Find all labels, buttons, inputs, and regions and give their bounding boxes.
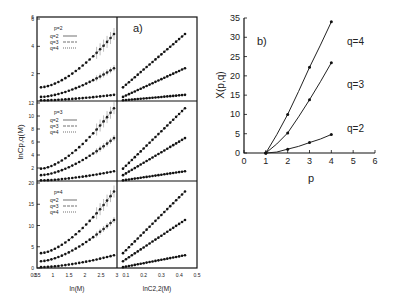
y-tick-label: 25 — [230, 52, 240, 62]
data-point — [163, 211, 166, 214]
data-point — [139, 163, 142, 166]
data-point — [54, 82, 57, 85]
x-tick-label: 3 — [116, 272, 119, 278]
data-point — [128, 265, 131, 268]
x-tick-label: 2 — [84, 272, 87, 278]
data-point — [122, 252, 125, 255]
data-point — [131, 254, 134, 257]
data-point — [184, 170, 187, 173]
data-point — [151, 82, 154, 85]
data-point — [109, 255, 112, 258]
data-point — [88, 260, 91, 263]
data-point — [40, 179, 43, 182]
data-point — [85, 241, 88, 244]
data-point — [178, 94, 181, 97]
data-point — [134, 167, 137, 170]
legend-title: p=3 — [54, 109, 63, 115]
data-point — [175, 71, 178, 74]
data-point — [74, 149, 77, 152]
data-point — [74, 176, 77, 179]
data-point — [81, 227, 84, 230]
data-point — [71, 236, 74, 239]
data-point — [95, 95, 98, 98]
data-point — [134, 98, 137, 101]
data-point — [64, 241, 67, 244]
panel-b-label: b) — [257, 35, 267, 47]
y-tick-label: 10 — [230, 109, 240, 119]
data-point — [64, 264, 67, 267]
data-point — [85, 223, 88, 226]
data-point — [99, 257, 102, 260]
data-point — [68, 263, 71, 266]
y-tick-label: 20 — [28, 180, 34, 186]
data-point — [181, 68, 184, 71]
data-point — [166, 48, 169, 51]
data-point — [181, 255, 184, 258]
data-point — [166, 147, 169, 150]
data-point — [134, 76, 137, 79]
data-point — [148, 225, 151, 228]
x-tick-label: 1.5 — [66, 272, 73, 278]
data-point — [47, 266, 50, 269]
data-point — [145, 244, 148, 247]
data-point — [50, 94, 53, 97]
data-point — [40, 252, 43, 255]
data-point — [151, 61, 154, 64]
data-point — [61, 244, 64, 247]
data-point — [122, 179, 125, 182]
series-line — [266, 22, 332, 153]
data-point — [330, 20, 333, 23]
data-point — [142, 231, 145, 234]
data-point — [184, 67, 187, 70]
data-point — [136, 237, 139, 240]
data-point — [151, 96, 154, 99]
x-axis-label: p — [308, 172, 314, 184]
data-point — [175, 171, 178, 174]
data-point — [71, 177, 74, 180]
y-tick-label: 0 — [235, 148, 240, 158]
data-point — [81, 243, 84, 246]
data-point — [74, 70, 77, 73]
x-tick-label: 1 — [52, 272, 55, 278]
data-point — [122, 86, 125, 89]
data-point — [136, 153, 139, 156]
data-point — [181, 170, 184, 173]
data-point — [68, 154, 71, 157]
data-point — [47, 95, 50, 98]
data-point — [54, 94, 57, 97]
data-point — [81, 64, 84, 67]
data-point — [131, 78, 134, 81]
data-point — [57, 246, 60, 249]
data-point — [181, 221, 184, 224]
data-point — [128, 178, 131, 181]
data-point — [169, 172, 172, 175]
data-point — [54, 265, 57, 268]
data-point — [95, 258, 98, 261]
data-point — [88, 96, 91, 99]
data-point — [148, 97, 151, 100]
data-point — [142, 176, 145, 179]
legend-entry: q=4 — [50, 129, 59, 135]
data-point — [92, 96, 95, 99]
data-point — [78, 161, 81, 164]
data-point — [122, 167, 125, 170]
data-point — [154, 81, 157, 84]
data-point — [172, 72, 175, 75]
data-point — [43, 251, 46, 254]
y-tick-label: 35 — [230, 13, 240, 23]
data-point — [47, 179, 50, 182]
data-point — [88, 174, 91, 177]
data-point — [40, 174, 43, 177]
data-point — [125, 172, 128, 175]
data-point — [178, 223, 181, 226]
data-point — [43, 266, 46, 269]
data-point — [172, 95, 175, 98]
data-point — [43, 86, 46, 89]
data-point — [145, 261, 148, 264]
data-point — [47, 173, 50, 176]
y-tick-label: 0 — [31, 265, 34, 271]
data-point — [61, 169, 64, 172]
data-point — [61, 79, 64, 82]
data-point — [68, 166, 71, 169]
series-label: q=3 — [347, 79, 364, 90]
